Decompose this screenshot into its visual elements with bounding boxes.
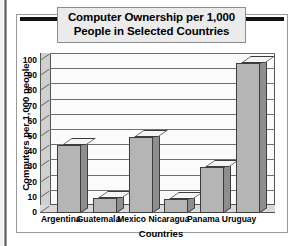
x-axis-title: Countries	[40, 228, 282, 239]
bar-side-face	[260, 58, 267, 213]
bar-top-face	[98, 191, 132, 198]
bar-series	[50, 53, 275, 213]
page-edge	[0, 0, 3, 246]
bar-top-face	[134, 130, 168, 137]
y-tick-label: 30	[28, 161, 37, 171]
bar	[129, 137, 153, 213]
figure-page: Computer Ownership per 1,000 People in S…	[0, 0, 302, 246]
bar-side-face	[224, 163, 231, 213]
x-tick-label: Uruguay	[220, 214, 258, 224]
y-tick-label: 20	[28, 177, 37, 187]
x-tick-label: Mexico	[113, 214, 151, 224]
y-tick-label: 50	[28, 131, 37, 141]
bar-front-face	[236, 63, 260, 213]
bar	[236, 63, 260, 213]
bar	[200, 167, 224, 213]
bar-top-face	[169, 192, 203, 199]
y-tick-label: 60	[28, 116, 37, 126]
x-tick-label: Argentina	[41, 214, 79, 224]
y-tick-label: 40	[28, 146, 37, 156]
chart-title: Computer Ownership per 1,000 People in S…	[57, 7, 246, 43]
bar-top-face	[241, 56, 275, 63]
x-tick-label: Panama	[184, 214, 222, 224]
bar-side-face	[81, 140, 88, 213]
plot-inner: 0102030405060708090100 ArgentinaGuatemal…	[40, 46, 282, 228]
y-tick-label: 0	[32, 207, 37, 217]
x-tick-label: Guatemala	[77, 214, 115, 224]
bar	[57, 145, 81, 213]
bar-front-face	[57, 145, 81, 213]
y-tick-label: 70	[28, 101, 37, 111]
y-tick-label: 10	[28, 192, 37, 202]
chart-title-line-1: Computer Ownership per 1,000	[60, 11, 243, 25]
page-spine	[4, 0, 7, 246]
bar-front-face	[200, 167, 224, 213]
bar-top-face	[205, 160, 239, 167]
bar-front-face	[164, 199, 188, 213]
y-tick-label: 90	[28, 70, 37, 80]
bar-front-face	[93, 198, 117, 213]
x-tick-label: Nicaragua	[148, 214, 186, 224]
bar	[93, 198, 117, 213]
bar-top-face	[62, 138, 96, 145]
plot-area: Computers per 1,000 people 0102030405060…	[24, 46, 282, 228]
bar	[164, 199, 188, 213]
chart-title-line-2: People in Selected Countries	[60, 25, 243, 39]
y-tick-label: 80	[28, 85, 37, 95]
y-tick-label: 100	[23, 55, 37, 65]
bar-front-face	[129, 137, 153, 213]
bar-side-face	[153, 132, 160, 213]
